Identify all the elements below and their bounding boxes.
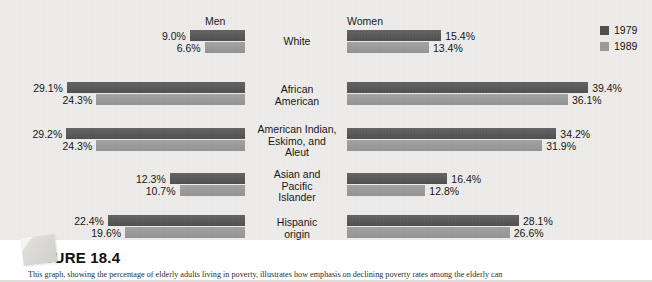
men-bar-line: 6.6% [0, 42, 245, 53]
men-bar-value-label: 29.1% [33, 82, 63, 94]
men-bar-line: 12.3% [0, 173, 245, 184]
women-bar-value-label: 26.6% [514, 227, 544, 239]
women-bar-value-label: 28.1% [523, 215, 553, 227]
women-bar-1989 [347, 185, 425, 196]
decorative-corner-tab [20, 234, 57, 266]
women-bar-line: 15.4% [347, 30, 475, 41]
category-label: AfricanAmerican [252, 84, 342, 107]
women-bar-value-label: 34.2% [560, 128, 590, 140]
men-bar-1979 [108, 215, 245, 226]
column-header-women: Women [347, 15, 383, 27]
men-bar-line: 22.4% [0, 215, 245, 226]
category-label-line: African [252, 84, 342, 96]
women-bar-line: 28.1% [347, 215, 553, 226]
women-bar-1979 [347, 30, 441, 41]
figure-page: Men Women 1979 1989 9.0%6.6%15.4%13.4%Wh… [0, 0, 652, 282]
chart-row: 29.2%24.3%34.2%31.9%American Indian,Eski… [0, 128, 652, 164]
women-bar-1989 [347, 94, 568, 105]
column-header-men: Men [205, 15, 225, 27]
women-bar-value-label: 31.9% [546, 140, 576, 152]
category-label-line: origin [252, 229, 342, 241]
chart-row-grid: 29.2%24.3%34.2%31.9%American Indian,Eski… [0, 128, 652, 164]
women-bar-value-label: 16.4% [451, 173, 481, 185]
men-bar-1979 [190, 30, 245, 41]
category-label-line: Hispanic [252, 217, 342, 229]
men-bar-1979 [66, 128, 245, 139]
women-bar-line: 34.2% [347, 128, 590, 139]
men-bar-value-label: 10.7% [146, 185, 176, 197]
chart-row-grid: 9.0%6.6%15.4%13.4%White [0, 30, 652, 66]
women-bar-1989 [347, 140, 542, 151]
chart-row-grid: 29.1%24.3%39.4%36.1%AfricanAmerican [0, 82, 652, 118]
women-bar-line: 39.4% [347, 82, 622, 93]
women-bar-1979 [347, 128, 556, 139]
men-bar-line: 9.0% [0, 30, 245, 41]
women-panel: 39.4%36.1% [347, 82, 652, 118]
women-bar-line: 12.8% [347, 185, 459, 196]
men-bar-value-label: 6.6% [177, 42, 201, 54]
women-bar-1979 [347, 215, 519, 226]
women-bar-value-label: 39.4% [592, 82, 622, 94]
men-bar-1989 [125, 227, 245, 238]
women-bar-value-label: 36.1% [572, 94, 602, 106]
category-label-line: Aleut [252, 147, 342, 159]
women-panel: 16.4%12.8% [347, 173, 652, 209]
category-label: White [252, 36, 342, 48]
men-bar-value-label: 24.3% [63, 94, 93, 106]
women-bar-value-label: 13.4% [433, 42, 463, 54]
men-panel: 29.1%24.3% [0, 82, 245, 118]
men-bar-value-label: 29.2% [33, 128, 63, 140]
women-bar-value-label: 12.8% [429, 185, 459, 197]
men-bar-value-label: 24.3% [63, 140, 93, 152]
men-bar-value-label: 9.0% [162, 30, 186, 42]
decorative-corner-fold [20, 237, 34, 251]
men-bar-value-label: 19.6% [91, 227, 121, 239]
women-panel: 34.2%31.9% [347, 128, 652, 164]
women-bar-line: 26.6% [347, 227, 544, 238]
women-bar-line: 16.4% [347, 173, 481, 184]
category-label-line: Islander [252, 192, 342, 204]
men-bar-1989 [96, 140, 245, 151]
men-panel: 12.3%10.7% [0, 173, 245, 209]
women-bar-1989 [347, 227, 510, 238]
category-label: American Indian,Eskimo, andAleut [252, 124, 342, 159]
men-bar-1989 [96, 94, 245, 105]
chart-row: 12.3%10.7%16.4%12.8%Asian andPacificIsla… [0, 173, 652, 209]
chart-row-grid: 12.3%10.7%16.4%12.8%Asian andPacificIsla… [0, 173, 652, 209]
category-label-line: American [252, 96, 342, 108]
women-panel: 15.4%13.4% [347, 30, 652, 66]
men-bar-value-label: 12.3% [136, 173, 166, 185]
men-bar-1979 [170, 173, 245, 184]
men-bar-line: 24.3% [0, 94, 245, 105]
women-bar-value-label: 15.4% [445, 30, 475, 42]
women-bar-1989 [347, 42, 429, 53]
men-panel: 9.0%6.6% [0, 30, 245, 66]
men-bar-1979 [67, 82, 245, 93]
category-label-line: Asian and [252, 169, 342, 181]
men-panel: 29.2%24.3% [0, 128, 245, 164]
category-label: Hispanicorigin [252, 217, 342, 240]
men-bar-line: 29.2% [0, 128, 245, 139]
men-bar-1989 [180, 185, 245, 196]
category-label: Asian andPacificIslander [252, 169, 342, 204]
women-bar-1979 [347, 173, 447, 184]
men-bar-value-label: 22.4% [74, 215, 104, 227]
women-bar-line: 31.9% [347, 140, 576, 151]
chart-row: 9.0%6.6%15.4%13.4%White [0, 30, 652, 66]
men-bar-line: 29.1% [0, 82, 245, 93]
category-label-line: American Indian, [252, 124, 342, 136]
men-bar-1989 [205, 42, 245, 53]
women-bar-line: 36.1% [347, 94, 602, 105]
men-bar-line: 24.3% [0, 140, 245, 151]
chart-row: 29.1%24.3%39.4%36.1%AfricanAmerican [0, 82, 652, 118]
caption-block: FIGURE 18.4 This graph, showing the perc… [0, 240, 652, 282]
chart-area: Men Women 1979 1989 9.0%6.6%15.4%13.4%Wh… [0, 0, 652, 240]
women-bar-1979 [347, 82, 588, 93]
category-label-line: White [252, 36, 342, 48]
men-bar-line: 10.7% [0, 185, 245, 196]
women-bar-line: 13.4% [347, 42, 463, 53]
